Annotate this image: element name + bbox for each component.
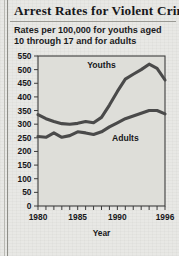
y-tick-label: 0 xyxy=(27,201,32,211)
x-axis-title: Year xyxy=(93,228,111,238)
y-axis-ticks xyxy=(34,56,38,206)
y-tick-label: 550 xyxy=(18,51,32,61)
series-label-adults: Adults xyxy=(112,133,139,143)
y-tick-label: 50 xyxy=(22,187,32,197)
x-tick-label: 1980 xyxy=(29,212,48,222)
y-tick-label: 450 xyxy=(18,78,32,88)
x-tick-label: 1985 xyxy=(68,212,87,222)
y-tick-label: 250 xyxy=(18,133,32,143)
y-tick-label: 200 xyxy=(18,146,32,156)
y-axis-tick-labels: 550500450400350300250200150100500 xyxy=(18,51,32,211)
chart-figure: 550500450400350300250200150100500 198019… xyxy=(0,0,179,256)
y-tick-label: 350 xyxy=(18,106,32,116)
y-tick-label: 500 xyxy=(18,65,32,75)
y-tick-label: 100 xyxy=(18,174,32,184)
series-label-youths: Youths xyxy=(87,60,116,70)
line-chart: 550500450400350300250200150100500 198019… xyxy=(0,0,179,256)
y-tick-label: 400 xyxy=(18,92,32,102)
y-tick-label: 300 xyxy=(18,119,32,129)
x-axis-ticks xyxy=(38,206,165,210)
x-axis-tick-labels: 1980198519901996 xyxy=(29,212,175,222)
x-tick-label: 1996 xyxy=(156,212,175,222)
x-tick-label: 1990 xyxy=(108,212,127,222)
y-tick-label: 150 xyxy=(18,160,32,170)
